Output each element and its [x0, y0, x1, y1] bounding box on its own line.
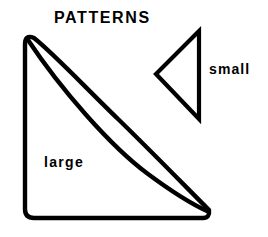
small-pattern-label: small	[209, 62, 250, 76]
large-pattern-shape	[25, 37, 209, 218]
large-pattern-hypotenuse	[28, 40, 207, 211]
figure-title: PATTERNS	[54, 10, 151, 26]
patterns-figure: PATTERNS large small	[0, 0, 268, 237]
large-pattern-label: large	[44, 155, 84, 169]
small-pattern-shape	[156, 31, 199, 119]
patterns-diagram-svg	[0, 0, 268, 237]
